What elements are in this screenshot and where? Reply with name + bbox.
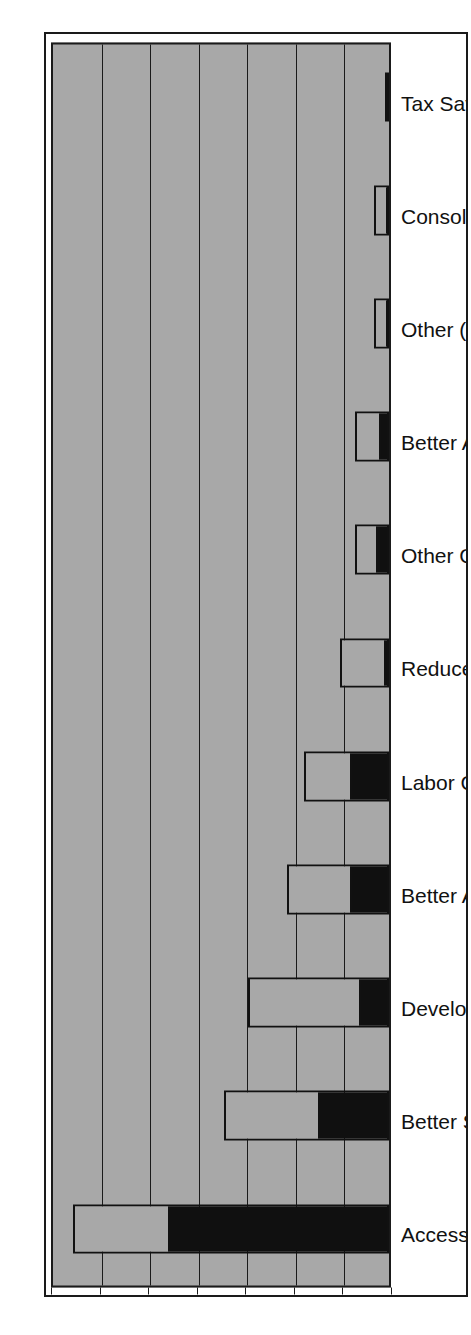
bar-group xyxy=(49,864,389,914)
rotated-chart-container: 0%10%20%30%40%50%60%70% Access to New Cu… xyxy=(51,42,461,1287)
plot-area xyxy=(51,42,391,1287)
bar-segment-reason-1 xyxy=(352,753,387,799)
bar-segment-reason-1 xyxy=(352,866,387,912)
axis-tick-mark xyxy=(342,1287,343,1294)
bar-stack xyxy=(248,977,389,1027)
bar-segment-reason-1 xyxy=(378,526,387,572)
bar-group xyxy=(49,72,389,122)
bar-group xyxy=(49,185,389,235)
category-label: Better Access to Talent and Skills xyxy=(401,430,468,454)
bar-stack xyxy=(304,751,389,801)
axis-tick-mark xyxy=(100,1287,101,1294)
category-label: Develop and Sell New Products or Service… xyxy=(401,996,468,1020)
bar-segment-reason-2 xyxy=(226,1092,318,1138)
bar-segment-reason-2 xyxy=(342,640,383,686)
bar-segment-divider xyxy=(386,300,388,346)
bar-segment-reason-2 xyxy=(376,187,385,233)
axis-tick-mark xyxy=(391,1287,392,1294)
category-label: Better Access to Suppliers and Materials xyxy=(401,883,468,907)
category-label: Reduce Risk xyxy=(401,657,468,681)
bar-segment-reason-2 xyxy=(75,1206,167,1252)
category-label: Other (Specify) xyxy=(401,317,468,341)
bar-segment-divider xyxy=(386,187,388,233)
category-label: Access to New Customers and Markets xyxy=(401,1222,468,1246)
axis-tick-mark xyxy=(294,1287,295,1294)
bar-segment-reason-1 xyxy=(381,413,387,459)
bar-stack xyxy=(374,185,389,235)
bar-group xyxy=(49,298,389,348)
bar-stack xyxy=(355,524,389,574)
bar-stack xyxy=(224,1090,389,1140)
bar-group xyxy=(49,524,389,574)
bar-group xyxy=(49,411,389,461)
bar-stack xyxy=(340,638,389,688)
bar-segment-reason-2 xyxy=(306,753,350,799)
bar-segment-reason-1 xyxy=(386,640,387,686)
bar-segment-reason-1 xyxy=(170,1206,387,1252)
axis-tick-mark xyxy=(245,1287,246,1294)
figure-frame: 0%10%20%30%40%50%60%70% Access to New Cu… xyxy=(44,32,468,1297)
axis-tick-mark xyxy=(51,1287,52,1294)
bar-segment-reason-2 xyxy=(357,413,379,459)
bar-stack xyxy=(287,864,389,914)
bar-group xyxy=(49,1204,389,1254)
bar-group xyxy=(49,1090,389,1140)
bar-segment-reason-2 xyxy=(289,866,350,912)
chart: 0%10%20%30%40%50%60%70% Access to New Cu… xyxy=(51,42,461,1287)
axis-tick-mark xyxy=(197,1287,198,1294)
bar-group xyxy=(49,751,389,801)
bar-segment-reason-2 xyxy=(250,979,359,1025)
bar-group xyxy=(49,638,389,688)
category-label: Consolidate Operations xyxy=(401,204,468,228)
bar-group xyxy=(49,977,389,1027)
bar-stack xyxy=(355,411,389,461)
bar-stack xyxy=(73,1204,389,1254)
bar-segment-reason-1 xyxy=(361,979,387,1025)
bar-segment-reason-1 xyxy=(320,1092,387,1138)
axis-tick-mark xyxy=(148,1287,149,1294)
category-label: Tax Savings xyxy=(401,91,468,115)
bar-stack xyxy=(385,72,389,122)
category-label: Better Serve Domestic Customers That Hav… xyxy=(401,1109,468,1133)
bar-segment-reason-2 xyxy=(357,526,376,572)
category-label: Other Cost Savings xyxy=(401,543,468,567)
bar-stack xyxy=(374,298,389,348)
category-label: Labor Cost Savings xyxy=(401,770,468,794)
bar-segment-reason-2 xyxy=(376,300,385,346)
